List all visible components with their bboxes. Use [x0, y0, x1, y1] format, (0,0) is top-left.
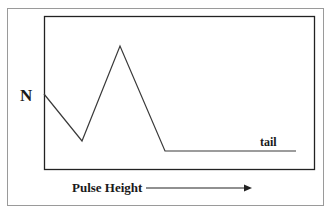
y-axis-label: N	[20, 86, 33, 105]
tail-label: tail	[260, 135, 277, 149]
arrow-right-icon	[146, 185, 252, 192]
x-axis-label: Pulse Height	[72, 180, 143, 195]
pulse-height-diagram: N tail Pulse Height	[0, 0, 330, 213]
spectrum-curve	[44, 46, 296, 151]
